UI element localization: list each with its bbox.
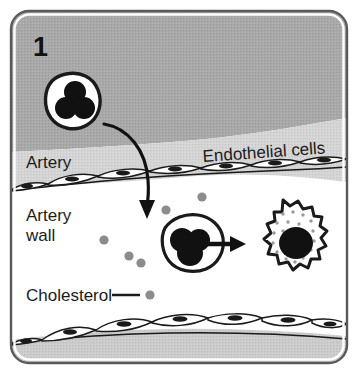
label-artery: Artery [26,153,72,172]
atherosclerosis-figure: 1 Artery Endothelial cells Artery wall C… [0,0,358,374]
endothelial-nucleus [168,166,182,171]
endothelial-nucleus [65,176,79,181]
endothelial-nucleus [228,315,243,321]
endothelial-nucleus [116,170,130,175]
endothelial-nucleus [324,321,337,326]
monocyte-in-lumen [45,73,100,129]
panel-number: 1 [33,32,48,62]
cholesterol-dot-legend [145,290,154,299]
panel-content: 1 Artery Endothelial cells Artery wall C… [11,11,347,363]
cholesterol-dot [99,235,108,244]
foam-cell-nucleus [279,227,313,259]
endothelial-nucleus [173,316,188,322]
cholesterol-dot [124,251,133,260]
endothelial-nucleus [63,329,77,335]
label-cholesterol: Cholesterol [26,286,112,305]
figure-canvas: 1 Artery Endothelial cells Artery wall C… [0,0,358,374]
endothelial-nucleus [21,184,33,189]
label-artery-wall-line2: wall [25,226,55,245]
cholesterol-dot [161,205,170,214]
cholesterol-dot [197,192,206,201]
endothelial-nucleus [281,317,296,323]
endothelial-nucleus [317,157,331,162]
endothelial-nucleus [20,339,32,344]
label-artery-wall-line1: Artery [26,206,72,225]
cholesterol-dot [136,258,145,267]
endothelial-nucleus [117,321,132,327]
